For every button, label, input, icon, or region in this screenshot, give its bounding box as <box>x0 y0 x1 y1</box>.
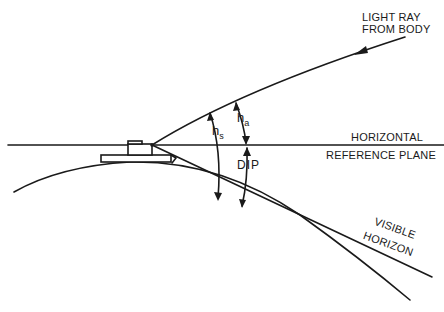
ship-bridge <box>128 141 142 144</box>
visible-horizon-line <box>152 145 432 277</box>
ship-deck <box>101 155 171 162</box>
earth-surface-curve <box>14 162 410 300</box>
reference-plane-label: REFERENCE PLANE <box>326 149 436 161</box>
observer-eye-point <box>150 143 154 147</box>
hs-arrow-bottom <box>214 192 222 201</box>
dip-arrow-top <box>243 147 251 156</box>
hs-symbol: hs <box>212 123 224 141</box>
ha-subscript: a <box>244 118 249 128</box>
light-ray-label: LIGHT RAY FROM BODY <box>362 11 430 35</box>
light-ray-label-line1: LIGHT RAY <box>362 11 430 23</box>
horizontal-label: HORIZONTAL <box>351 131 423 143</box>
ship-cabin <box>128 144 152 155</box>
dip-arrow-bottom <box>239 199 246 208</box>
ha-arrow-bottom <box>242 136 250 145</box>
light-ray-arrowhead <box>354 46 368 55</box>
light-ray-curve <box>152 37 405 145</box>
dip-angle-arc <box>242 148 247 206</box>
ha-symbol: ha <box>237 110 249 128</box>
hs-subscript: s <box>219 131 224 141</box>
dip-label: DIP <box>237 158 260 172</box>
light-ray-label-line2: FROM BODY <box>362 23 430 35</box>
